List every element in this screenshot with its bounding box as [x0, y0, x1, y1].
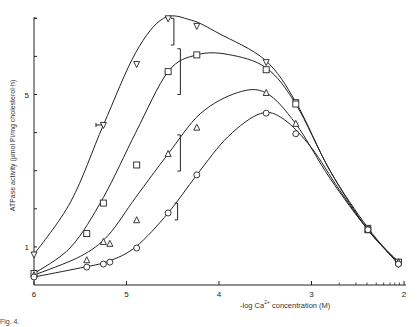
- square-marker: [263, 67, 269, 73]
- square-marker: [165, 69, 171, 75]
- square-marker: [134, 162, 140, 168]
- triangle-up-marker: [134, 217, 140, 223]
- triangle-up-marker: [107, 240, 113, 246]
- square-marker: [100, 200, 106, 206]
- circle-marker: [365, 227, 371, 233]
- x-axis-label-prefix: -log Ca: [240, 301, 264, 310]
- circle-marker: [134, 245, 140, 251]
- circle-marker: [165, 210, 171, 216]
- y-tick-label: 5: [25, 91, 30, 100]
- y-axis-label: ATPase activity (µmol Pi/mg cholesterol·…: [9, 56, 16, 236]
- triangle-up-marker: [194, 124, 200, 130]
- data-markers: [31, 16, 401, 280]
- circle-marker: [31, 274, 37, 280]
- x-tick-label: 2: [402, 290, 407, 299]
- square-marker: [194, 52, 200, 58]
- chart-canvas: 6543215: [0, 0, 417, 327]
- triangle-down-marker: [134, 62, 140, 68]
- figure-caption: Fig. 4.: [0, 318, 19, 325]
- curve-triangle: [34, 90, 398, 276]
- circle-marker: [107, 259, 113, 265]
- triangle-down-marker: [31, 252, 37, 258]
- circle-marker: [100, 261, 106, 267]
- circle-marker: [84, 264, 90, 270]
- square-marker: [293, 101, 299, 107]
- x-axis-label: -log Ca2+ concentration (M): [240, 299, 330, 310]
- axes: 6543215: [25, 17, 407, 299]
- circle-marker: [263, 110, 269, 116]
- error-bar: [177, 49, 180, 95]
- x-tick-label: 5: [124, 290, 129, 299]
- circle-marker: [395, 261, 401, 267]
- x-axis-label-suffix: concentration (M): [270, 301, 330, 310]
- x-tick-label: 6: [32, 290, 37, 299]
- triangle-up-marker: [84, 257, 90, 263]
- x-tick-label: 3: [309, 290, 314, 299]
- square-marker: [84, 231, 90, 237]
- x-tick-label: 4: [217, 290, 222, 299]
- error-bar: [171, 18, 174, 45]
- y-tick-label: 1: [25, 243, 30, 252]
- fitted-curves: [34, 16, 398, 277]
- triangle-down-marker: [165, 16, 171, 22]
- circle-marker: [293, 131, 299, 137]
- curve-square: [34, 53, 398, 274]
- triangle-down-marker: [194, 23, 200, 29]
- error-bar: [175, 203, 178, 220]
- circle-marker: [194, 172, 200, 178]
